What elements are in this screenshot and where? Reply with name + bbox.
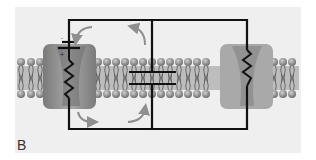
- membrane-circuit-diagram: - +: [0, 0, 316, 160]
- battery-negative-sign: -: [61, 35, 63, 41]
- arrow-top-left-icon: [76, 27, 92, 40]
- battery-positive-sign: +: [60, 51, 64, 58]
- arrow-bottom-left-icon: [78, 112, 93, 122]
- panel-label: B: [17, 137, 26, 153]
- arrow-top-right-icon: [133, 27, 145, 45]
- arrow-bottom-right-icon: [128, 109, 145, 122]
